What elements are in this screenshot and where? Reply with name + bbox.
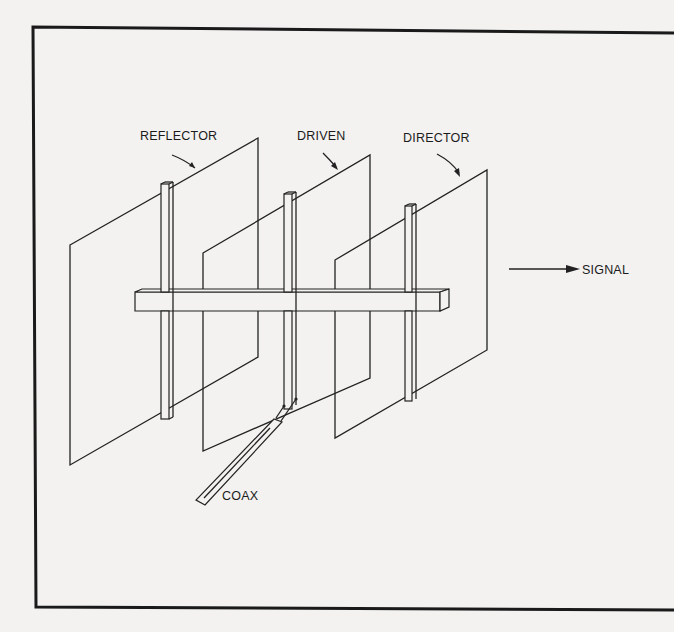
arrowhead-icon [566, 265, 580, 273]
reflector-label-group: REFLECTOR [140, 129, 217, 168]
driven-label: DRIVEN [297, 129, 345, 143]
figure-frame [33, 27, 674, 610]
director-label: DIRECTOR [403, 131, 470, 145]
director-label-group: DIRECTOR [403, 131, 470, 177]
signal-label: SIGNAL [582, 263, 629, 277]
diagram-page: REFLECTOR DRIVEN DIRECTOR SIGNAL COAX [0, 0, 674, 632]
coax-label-group: COAX [222, 489, 259, 503]
coax-label: COAX [222, 489, 259, 503]
driven-label-group: DRIVEN [297, 129, 345, 170]
reflector-label: REFLECTOR [140, 129, 217, 143]
signal-arrow: SIGNAL [509, 263, 629, 277]
yagi-antenna-diagram: REFLECTOR DRIVEN DIRECTOR SIGNAL COAX [0, 0, 674, 632]
